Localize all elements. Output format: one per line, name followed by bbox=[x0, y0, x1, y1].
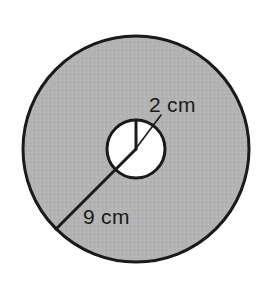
annulus-diagram: 2 cm 9 cm bbox=[0, 0, 270, 284]
inner-radius-label: 2 cm bbox=[149, 93, 196, 116]
figure-container: 2 cm 9 cm bbox=[0, 0, 270, 284]
outer-radius-label: 9 cm bbox=[83, 205, 130, 228]
